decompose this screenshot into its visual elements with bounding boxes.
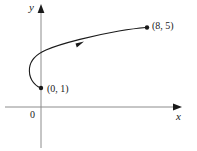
start-point-dot <box>39 86 43 90</box>
y-axis-label: y <box>29 2 34 13</box>
origin-label: 0 <box>30 110 35 120</box>
start-point-label: (0, 1) <box>47 84 69 94</box>
x-axis-label: x <box>176 111 181 122</box>
end-point-label: (8, 5) <box>152 21 174 31</box>
end-point-dot <box>145 25 149 29</box>
